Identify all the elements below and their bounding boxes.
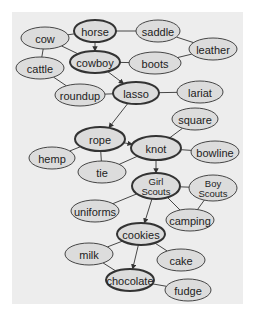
node-horse: horse (74, 20, 116, 42)
edge-cowboy-lasso (108, 72, 124, 84)
node-saddle: saddle (136, 20, 180, 42)
edge-girl_scouts-cookies (144, 199, 152, 223)
node-knot: knot (131, 136, 181, 160)
node-cake: cake (157, 249, 205, 271)
edge-chocolate-fudge (152, 284, 166, 286)
node-milk: milk (65, 243, 113, 265)
node-roundup: roundup (55, 84, 105, 106)
node-boy_scouts: BoyScouts (189, 175, 237, 201)
node-label: Scouts (198, 188, 227, 199)
node-label: Girl (149, 176, 164, 187)
node-label: hemp (38, 153, 66, 165)
node-label: cow (35, 33, 55, 45)
node-cattle: cattle (16, 57, 64, 79)
edge-cookies-milk (107, 241, 122, 247)
edge-rope-tie (101, 151, 102, 161)
node-label: rope (89, 134, 111, 146)
edge-cattle-roundup (53, 77, 66, 86)
node-cowboy: cowboy (70, 51, 120, 73)
node-lariat: lariat (177, 81, 223, 103)
node-label: horse (81, 26, 109, 38)
node-lasso: lasso (113, 82, 159, 104)
node-label: milk (79, 249, 99, 261)
node-label: camping (169, 215, 211, 227)
edge-lasso-rope (109, 103, 128, 127)
node-label: cake (169, 255, 192, 267)
node-leather: leather (189, 38, 237, 60)
node-label: knot (146, 143, 167, 155)
node-bowline: bowline (191, 141, 239, 163)
edge-boots-leather (178, 54, 192, 57)
node-label: lariat (188, 87, 212, 99)
edge-girl_scouts-camping (167, 197, 180, 210)
edge-rope-hemp (70, 147, 81, 151)
edge-girl_scouts-uniforms (113, 194, 137, 204)
node-boots: boots (129, 52, 181, 74)
node-label: cookies (122, 229, 160, 241)
node-label: saddle (142, 26, 174, 38)
node-label: roundup (60, 90, 100, 102)
node-rope: rope (75, 127, 125, 151)
node-cookies: cookies (117, 223, 165, 245)
node-label: fudge (174, 285, 202, 297)
node-chocolate: chocolate (106, 269, 154, 291)
node-label: bowline (196, 147, 233, 159)
node-uniforms: uniforms (71, 200, 119, 222)
edge-cookies-chocolate (133, 245, 139, 269)
node-camping: camping (166, 209, 214, 231)
node-label: square (178, 114, 212, 126)
node-label: cattle (27, 63, 53, 75)
node-label: cowboy (76, 57, 114, 69)
node-label: uniforms (74, 206, 117, 218)
node-label: leather (196, 44, 230, 56)
edge-cookies-cake (155, 243, 167, 251)
node-hemp: hemp (29, 147, 75, 169)
node-fudge: fudge (165, 279, 211, 301)
edge-rope-knot (124, 143, 133, 144)
node-tie: tie (78, 161, 126, 183)
edge-knot-square (170, 128, 183, 138)
node-square: square (172, 108, 218, 130)
edge-saddle-leather (176, 37, 193, 43)
node-label: lasso (123, 88, 149, 100)
edge-milk-chocolate (103, 263, 116, 271)
node-girl_scouts: GirlScouts (132, 173, 180, 199)
node-label: boots (142, 58, 169, 70)
node-label: Scouts (141, 186, 170, 197)
node-label: Boy (205, 178, 222, 189)
edge-boy_scouts-camping (198, 200, 205, 209)
node-cow: cow (21, 27, 69, 49)
edge-knot-tie (119, 156, 137, 164)
edge-cow-cowboy (62, 46, 79, 54)
node-label: chocolate (106, 275, 153, 287)
edge-knot-bowline (181, 150, 192, 151)
edge-cow-cattle (42, 49, 43, 57)
node-label: tie (96, 167, 108, 179)
semantic-network-diagram: horsesaddlecowleathercowboybootscattlero… (0, 0, 255, 316)
